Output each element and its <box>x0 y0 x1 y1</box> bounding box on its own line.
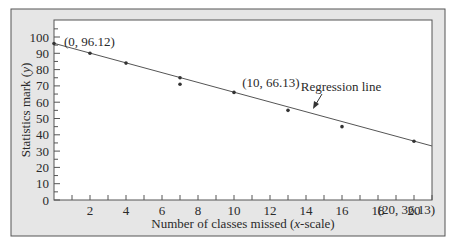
y-tick-label: 100 <box>30 30 50 45</box>
x-tick-label: 2 <box>87 203 94 218</box>
x-tick-label: 4 <box>123 203 130 218</box>
annotation-label: (0, 96.12) <box>64 34 115 49</box>
scatter-chart: 0102030405060708090100 2468101214161820 … <box>0 0 450 244</box>
y-tick-label: 60 <box>36 95 49 110</box>
y-tick-label: 70 <box>36 78 49 93</box>
x-axis-label: Number of classes missed (x-scale) <box>151 216 334 231</box>
data-point <box>286 109 290 113</box>
y-tick-label: 30 <box>36 144 49 159</box>
y-tick-label: 10 <box>36 176 49 191</box>
y-axis-label: Statistics mark (y) <box>18 63 33 158</box>
data-point <box>178 82 182 86</box>
y-tick-label: 40 <box>36 127 49 142</box>
annotation-label: (20, 36.13) <box>378 202 435 217</box>
data-point <box>88 52 92 56</box>
data-point <box>340 125 344 129</box>
y-tick-label: 20 <box>36 160 49 175</box>
data-point <box>124 61 128 65</box>
data-point <box>52 42 56 46</box>
data-point <box>232 91 236 95</box>
y-tick-label: 90 <box>36 46 49 61</box>
data-point <box>412 140 416 144</box>
y-tick-label: 0 <box>43 193 50 208</box>
data-point <box>178 76 182 80</box>
y-tick-label: 80 <box>36 62 49 77</box>
x-tick-label: 16 <box>336 203 350 218</box>
annotation-label: (10, 66.13) <box>242 75 299 90</box>
annotation-label: Regression line <box>301 79 382 94</box>
y-tick-label: 50 <box>36 111 49 126</box>
